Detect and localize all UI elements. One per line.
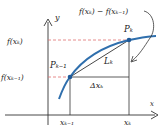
- curve-f: [59, 36, 156, 99]
- label-P-k: Pₖ: [123, 24, 133, 34]
- label-delta-x-k: Δxₖ: [89, 81, 103, 90]
- x-axis-label: x: [150, 100, 154, 108]
- arc-length-diagram: y x f(xₖ) − f(xₖ₋₁) f(xₖ) f(xₖ₋₁) Pₖ Pₖ₋…: [0, 0, 163, 133]
- point-P-k: [127, 38, 132, 43]
- label-x-k-minus-1: xₖ₋₁: [60, 118, 74, 127]
- difference-label: f(xₖ) − f(xₖ₋₁): [78, 7, 128, 16]
- point-P-k-minus-1: [68, 75, 73, 80]
- y-axis-label: y: [54, 13, 60, 22]
- label-P-k-minus-1: Pₖ₋₁: [49, 60, 67, 70]
- label-x-k: xₖ: [124, 118, 131, 127]
- label-f-xk-minus-1: f(xₖ₋₁): [0, 73, 24, 82]
- label-f-xk: f(xₖ): [6, 37, 23, 46]
- label-L-k: Lₖ: [103, 56, 113, 66]
- chord-Lk: [70, 40, 129, 77]
